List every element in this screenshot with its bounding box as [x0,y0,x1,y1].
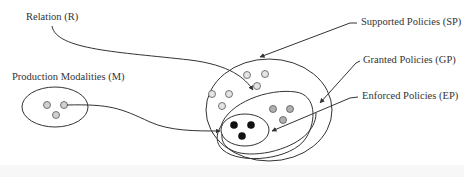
relation-label: Relation (R) [26,11,79,23]
supported-policies-arrow [260,23,357,57]
modalities-arrow [67,105,220,131]
supported-dot [209,91,216,98]
enforced-policies-label: Enforced Policies (EP) [362,90,459,102]
supported-dot [219,103,226,110]
enforced-dot [247,121,255,129]
production-modalities-set [22,87,88,127]
enforced-policies-arrow [272,97,358,131]
supported-dot [262,71,269,78]
enforced-dot [230,121,238,129]
diagram-canvas: Relation (R) Production Modalities (M) S… [0,0,464,177]
enforced-policies-set [221,114,269,146]
modality-dot [61,102,68,109]
supported-dot [226,91,233,98]
modality-dot [53,112,60,119]
production-modalities-label: Production Modalities (M) [12,71,125,83]
supported-dot [254,83,261,90]
enforced-dot [238,132,246,140]
modality-dot [44,102,51,109]
policy-sets-diagram: Relation (R) Production Modalities (M) S… [0,0,464,177]
granted-dot [270,106,277,113]
supported-policies-label: Supported Policies (SP) [361,16,462,28]
granted-policies-label: Granted Policies (GP) [363,54,456,66]
granted-dot [280,117,287,124]
granted-policies-arrow [320,61,360,103]
supported-dot [244,72,251,79]
granted-dot [287,106,294,113]
